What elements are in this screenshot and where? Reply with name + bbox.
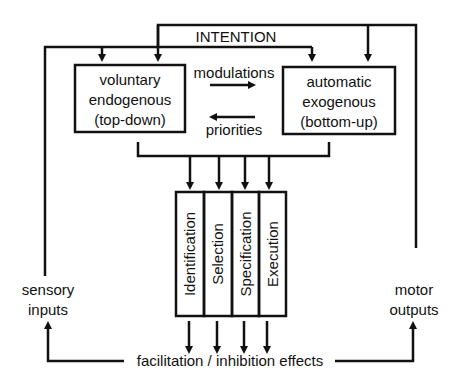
stage-specification-label: Specification — [237, 211, 254, 296]
stage-selection-label: Selection — [209, 223, 226, 285]
automatic-line-3: (bottom-up) — [300, 113, 378, 130]
attention-diagram: INTENTION voluntary endogenous (top-down… — [0, 0, 463, 388]
automatic-box-text: automatic exogenous (bottom-up) — [300, 73, 378, 130]
automatic-line-2: exogenous — [302, 93, 375, 110]
voluntary-line-2: endogenous — [89, 91, 172, 108]
stage-execution-label: Execution — [264, 221, 281, 287]
voluntary-line-3: (top-down) — [94, 111, 166, 128]
motor-line-2: outputs — [389, 301, 438, 318]
sensory-line-2: inputs — [28, 301, 68, 318]
sensory-line-1: sensory — [22, 281, 75, 298]
automatic-line-1: automatic — [306, 73, 372, 90]
motor-outputs-label: motor outputs — [389, 281, 438, 318]
to-motor-line — [335, 325, 413, 361]
priorities-label: priorities — [206, 121, 263, 138]
voluntary-line-1: voluntary — [100, 71, 161, 88]
motor-line-1: motor — [395, 281, 433, 298]
sensory-inputs-label: sensory inputs — [22, 281, 75, 318]
voluntary-box-text: voluntary endogenous (top-down) — [89, 71, 172, 128]
stage-identification-label: Identification — [181, 212, 198, 296]
to-sensory-line — [48, 325, 124, 361]
merge-line — [138, 142, 329, 156]
intention-label: INTENTION — [196, 28, 277, 45]
facilitation-inhibition-label: facilitation / inhibition effects — [137, 352, 324, 369]
modulations-label: modulations — [194, 64, 275, 81]
